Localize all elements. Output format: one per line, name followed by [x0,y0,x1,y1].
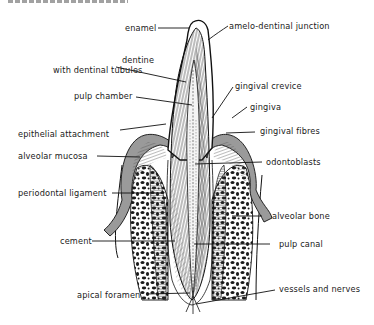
tooth-anatomy-diagram: enamel amelo-dentinal junction dentine w… [0,0,374,325]
label-gingival-crevice: gingival crevice [235,82,302,91]
label-pulp-chamber: pulp chamber [74,92,133,101]
label-gingival-fibres: gingival fibres [260,127,320,136]
label-vessels-and-nerves: vessels and nerves [279,285,360,294]
label-dentine: dentine [93,56,183,65]
label-odontoblasts: odontoblasts [266,158,321,167]
label-dentinal-tubules: with dentinal tubules [53,66,142,75]
label-apical-foramen: apical foramen [77,291,140,300]
label-pulp-canal: pulp canal [279,240,323,249]
label-alveolar-bone: alveolar bone [272,212,330,221]
label-amelo-dentinal-junction: amelo-dentinal junction [229,22,330,31]
label-cement: cement [60,237,92,246]
label-epithelial-attachment: epithelial attachment [18,130,109,139]
label-alveolar-mucosa: alveolar mucosa [18,152,88,161]
label-enamel: enamel [125,24,156,33]
label-periodontal-ligament: periodontal ligament [18,189,107,198]
label-gingiva: gingiva [250,103,281,112]
